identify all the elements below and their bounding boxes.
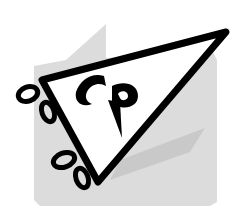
pennant-logo: CP <box>0 0 243 220</box>
